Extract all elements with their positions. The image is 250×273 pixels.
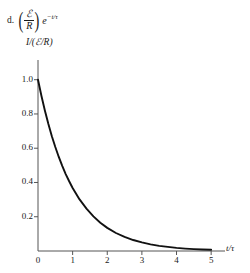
y-tick-label: 0.4 <box>22 176 33 186</box>
x-tick-label: 1 <box>63 255 83 265</box>
y-tick-marks <box>34 80 38 217</box>
exponential-decay-curve <box>38 80 211 250</box>
x-tick-label: 0 <box>28 255 48 265</box>
plot-canvas <box>0 0 250 273</box>
y-tick-label: 0.6 <box>22 142 33 152</box>
y-tick-label: 0.8 <box>22 108 33 118</box>
y-tick-label: 1.0 <box>22 74 33 84</box>
x-tick-label: 2 <box>97 255 117 265</box>
axis-group <box>38 60 225 251</box>
y-tick-label: 0.2 <box>22 211 33 221</box>
x-tick-label: 3 <box>132 255 152 265</box>
x-tick-label: 5 <box>201 255 221 265</box>
x-tick-label: 4 <box>167 255 187 265</box>
figure-panel: d. ( ℰ R ) e−t/τ I/(ℰ/R) t/τ 0.20.40.60.… <box>0 0 250 273</box>
